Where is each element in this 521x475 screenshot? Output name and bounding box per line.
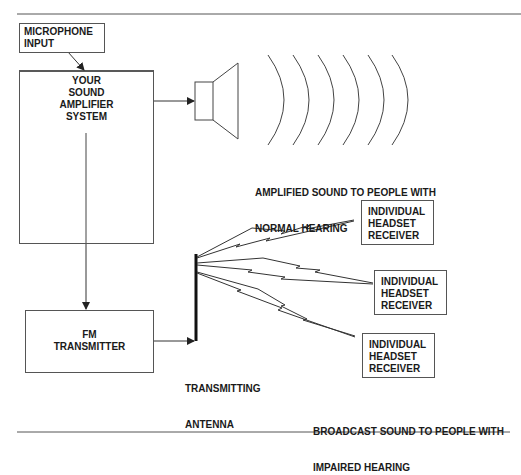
box-label: YOUR xyxy=(20,75,153,87)
microphone-input-box: MICROPHONE INPUT xyxy=(19,23,105,53)
mic-to-amp-arrow xyxy=(68,52,84,70)
box-label: AMPLIFIER xyxy=(20,99,153,111)
sound-wave-icon xyxy=(268,55,408,145)
speaker-icon xyxy=(195,63,238,139)
broadcast-sound-label: BROADCAST SOUND TO PEOPLE WITH IMPAIRED … xyxy=(313,402,504,475)
amplifier-box: YOUR SOUND AMPLIFIER SYSTEM xyxy=(19,71,154,244)
fm-transmitter-box: FM TRANSMITTER xyxy=(25,310,154,373)
receiver-box-1: INDIVIDUAL HEADSET RECEIVER xyxy=(361,200,434,245)
box-label: MICROPHONE xyxy=(24,26,100,38)
receiver-box-2: INDIVIDUAL HEADSET RECEIVER xyxy=(374,270,447,315)
box-label: SOUND xyxy=(20,87,153,99)
box-label: INPUT xyxy=(24,38,100,50)
receiver-box-3: INDIVIDUAL HEADSET RECEIVER xyxy=(362,333,435,378)
box-label: FM xyxy=(26,329,153,341)
box-label: SYSTEM xyxy=(20,111,153,123)
transmitting-antenna-label: TRANSMITTING ANTENNA xyxy=(185,359,261,443)
box-label: TRANSMITTER xyxy=(26,341,153,353)
